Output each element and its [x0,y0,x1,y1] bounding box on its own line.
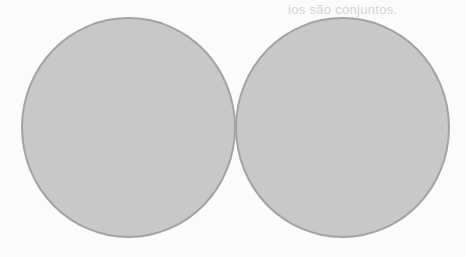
right-circle [235,17,450,238]
bleed-through-text: ios são conjuntos. [288,2,397,17]
left-circle [21,17,236,238]
